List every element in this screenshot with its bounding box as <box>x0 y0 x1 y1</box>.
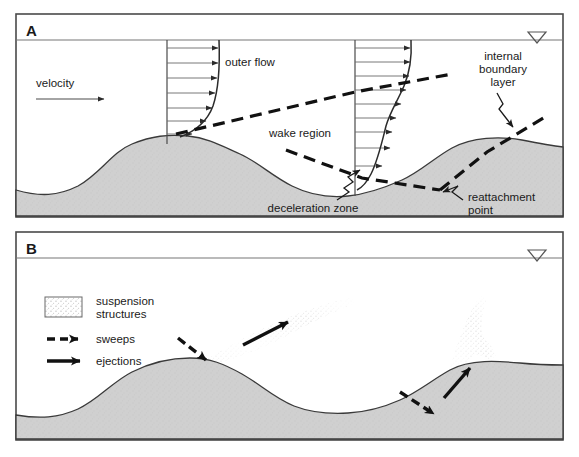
reattachment-label-line2: point <box>468 204 494 216</box>
bedform-flow-diagram: A velocity <box>0 0 579 457</box>
legend-suspension-label-line2: structures <box>96 308 147 320</box>
wake-region-label: wake region <box>268 127 331 139</box>
panel-A: A velocity <box>16 14 563 217</box>
panel-B: B suspension structures sweeps <box>16 232 563 440</box>
legend-suspension-swatch <box>45 297 82 317</box>
legend-ejections-label: ejections <box>96 355 142 367</box>
legend-sweeps-label: sweeps <box>96 333 135 345</box>
panel-A-letter: A <box>26 22 37 39</box>
reattachment-label-line1: reattachment <box>468 191 536 203</box>
panel-B-letter: B <box>26 240 37 257</box>
legend-suspension-label-line1: suspension <box>96 295 154 307</box>
ibl-label-line3: layer <box>491 76 516 88</box>
outer-flow-label: outer flow <box>225 56 276 68</box>
figure-root: A velocity <box>0 0 579 457</box>
deceleration-zone-label: deceleration zone <box>268 202 359 214</box>
ibl-label-line2: boundary <box>479 63 527 75</box>
velocity-label: velocity <box>36 77 75 89</box>
ibl-label-line1: internal <box>484 50 522 62</box>
